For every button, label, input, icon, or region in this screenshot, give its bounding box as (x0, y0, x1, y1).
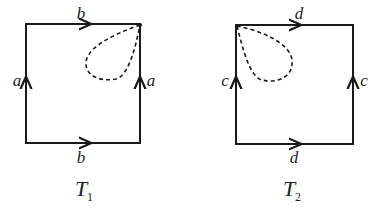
label-bottom-t2: d (290, 148, 299, 167)
dashed-loop-t1 (86, 25, 140, 80)
caption-t2-subscript: 2 (295, 190, 301, 204)
label-top-t2: d (295, 4, 304, 23)
label-right-t2: c (360, 71, 368, 90)
square-t1 (26, 23, 142, 143)
square-t2 (235, 24, 353, 144)
label-right-t1: a (147, 71, 156, 90)
torus-diagrams: b b a a T 1 d d c c T 2 (0, 0, 374, 216)
label-left-t2: c (221, 71, 229, 90)
dashed-loop-t2 (237, 26, 292, 81)
caption-t1-subscript: 1 (87, 190, 93, 204)
label-bottom-t1: b (77, 148, 86, 167)
label-left-t1: a (13, 71, 22, 90)
label-top-t1: b (77, 4, 86, 23)
